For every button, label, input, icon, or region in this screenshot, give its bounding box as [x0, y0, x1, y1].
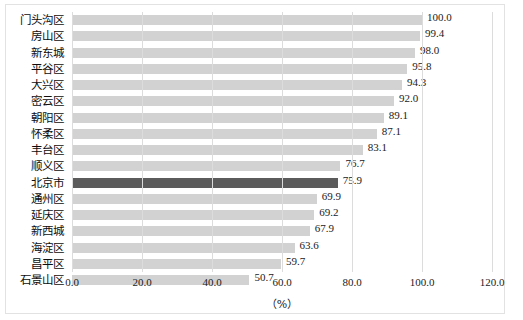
bar-value-label: 69.9 — [322, 190, 341, 202]
bar — [72, 145, 363, 155]
gridline-80.0 — [352, 12, 353, 272]
gridline-100.0 — [422, 12, 423, 272]
category-label: 新东城 — [0, 45, 68, 61]
plot-area: 100.099.498.095.894.392.089.187.183.176.… — [72, 12, 492, 272]
gridline-0.0 — [72, 12, 73, 272]
gridline-20.0 — [142, 12, 143, 272]
bar — [72, 64, 407, 74]
x-tick-label: 40.0 — [202, 276, 221, 288]
bar-value-label: 92.0 — [399, 92, 418, 104]
bar — [72, 129, 377, 139]
bar-value-label: 59.7 — [286, 255, 305, 267]
bar — [72, 161, 340, 171]
x-tick-label: 0.0 — [65, 276, 79, 288]
bar — [72, 226, 310, 236]
bar — [72, 96, 394, 106]
bar-highlighted — [72, 178, 338, 188]
x-tick-label: 100.0 — [410, 276, 435, 288]
bar-value-label: 94.3 — [407, 76, 426, 88]
bar — [72, 243, 295, 253]
category-axis-labels: 门头沟区房山区新东城平谷区大兴区密云区朝阳区怀柔区丰台区顺义区北京市通州区延庆区… — [0, 12, 68, 288]
x-tick-label: 20.0 — [132, 276, 151, 288]
category-label: 怀柔区 — [0, 126, 68, 142]
bar-value-label: 87.1 — [382, 125, 401, 137]
bar-value-label: 76.7 — [345, 157, 364, 169]
bar-value-label: 83.1 — [368, 141, 387, 153]
x-tick-label: 60.0 — [272, 276, 291, 288]
bar-value-label: 67.9 — [315, 222, 334, 234]
category-label: 新西城 — [0, 223, 68, 239]
bar-value-label: 69.2 — [319, 206, 338, 218]
bar — [72, 194, 317, 204]
category-label: 丰台区 — [0, 142, 68, 158]
category-label: 密云区 — [0, 93, 68, 109]
bar-value-label: 89.1 — [389, 109, 408, 121]
bar — [72, 210, 314, 220]
bar-value-label: 99.4 — [425, 27, 444, 39]
category-label: 通州区 — [0, 191, 68, 207]
bar-value-label: 100.0 — [427, 11, 452, 23]
category-label: 平谷区 — [0, 61, 68, 77]
category-label: 昌平区 — [0, 256, 68, 272]
category-label: 北京市 — [0, 175, 68, 191]
category-label: 顺义区 — [0, 158, 68, 174]
horizontal-bar-chart: 门头沟区房山区新东城平谷区大兴区密云区朝阳区怀柔区丰台区顺义区北京市通州区延庆区… — [0, 0, 523, 320]
gridline-40.0 — [212, 12, 213, 272]
x-tick-label: 80.0 — [342, 276, 361, 288]
bar-value-label: 63.6 — [300, 239, 319, 251]
category-label: 门头沟区 — [0, 12, 68, 28]
bar — [72, 113, 384, 123]
gridline-60.0 — [282, 12, 283, 272]
category-label: 石景山区 — [0, 272, 68, 288]
axis-unit-label: （%） — [72, 295, 492, 311]
bar — [72, 259, 281, 269]
bar — [72, 48, 415, 58]
category-label: 海淀区 — [0, 240, 68, 256]
category-label: 朝阳区 — [0, 110, 68, 126]
bar — [72, 31, 420, 41]
value-axis-ticks: 0.020.040.060.080.0100.0120.0 — [72, 276, 492, 292]
category-label: 延庆区 — [0, 207, 68, 223]
x-tick-label: 120.0 — [480, 276, 505, 288]
category-label: 房山区 — [0, 28, 68, 44]
gridline-120.0 — [492, 12, 493, 272]
bar — [72, 15, 422, 25]
category-label: 大兴区 — [0, 77, 68, 93]
